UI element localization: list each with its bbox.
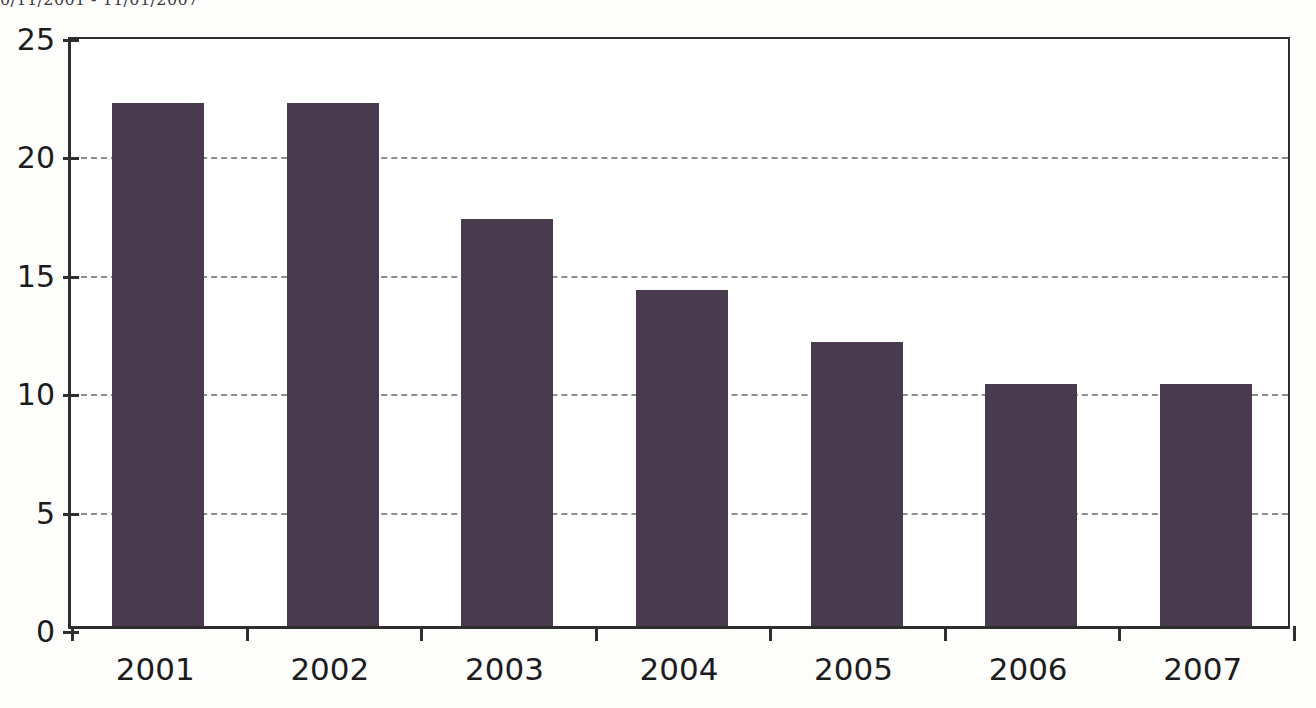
x-axis-label-2005: 2005	[814, 651, 893, 687]
x-axis-tick-mark	[1118, 626, 1121, 641]
y-axis-label: 5	[36, 495, 55, 530]
x-axis-label-2007: 2007	[1163, 651, 1242, 687]
x-axis-tick-mark	[595, 626, 598, 641]
bar-2002	[287, 103, 379, 626]
y-axis-tick-mark	[63, 157, 79, 160]
y-axis-tick-mark	[63, 513, 79, 516]
y-axis-tick-mark	[63, 39, 79, 42]
x-axis-tick-mark	[420, 626, 423, 641]
bar-2006	[985, 384, 1077, 626]
bar-2001	[112, 103, 204, 626]
y-axis-tick-mark	[63, 276, 79, 279]
bar-2004	[636, 290, 728, 626]
y-axis-label: 15	[17, 258, 55, 293]
x-axis-label-2006: 2006	[989, 651, 1068, 687]
y-axis-label: 20	[17, 140, 55, 175]
x-axis-label-2002: 2002	[290, 651, 369, 687]
plot-area: 0510152025	[68, 37, 1290, 629]
x-axis-tick-mark	[246, 626, 249, 641]
gridline-15	[71, 276, 1288, 278]
bar-chart-figure: 0510152025 2001200220032004200520062007	[0, 0, 1316, 708]
y-axis-label: 0	[36, 614, 55, 649]
y-axis-label: 10	[17, 377, 55, 412]
x-axis-tick-mark	[1293, 626, 1296, 641]
x-axis-tick-mark	[769, 626, 772, 641]
x-axis-label-2001: 2001	[116, 651, 195, 687]
bar-2007	[1160, 384, 1252, 626]
y-axis-label: 25	[17, 22, 55, 57]
x-axis-tick-mark	[944, 626, 947, 641]
x-axis-label-2003: 2003	[465, 651, 544, 687]
x-axis-label-2004: 2004	[640, 651, 719, 687]
bar-2005	[811, 342, 903, 626]
y-axis-tick-mark	[63, 394, 79, 397]
gridline-20	[71, 157, 1288, 159]
x-axis-tick-mark	[71, 626, 74, 641]
bar-2003	[461, 219, 553, 626]
